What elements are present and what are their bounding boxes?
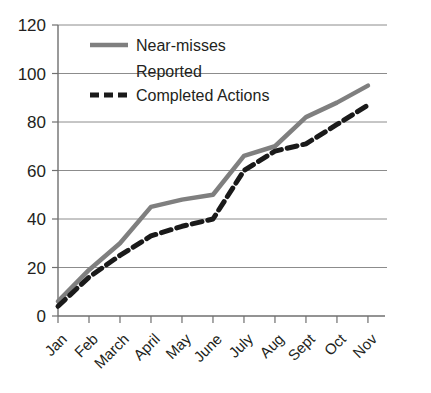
line-chart: 020406080100120 JanFebMarchAprilMayJuneJ… <box>0 0 431 393</box>
y-tick-label: 40 <box>27 210 46 229</box>
y-tick-label: 100 <box>18 65 46 84</box>
legend-label-near-misses-line2: Reported <box>136 63 202 80</box>
chart-canvas: 020406080100120 JanFebMarchAprilMayJuneJ… <box>0 0 431 393</box>
y-tick-label: 80 <box>27 113 46 132</box>
y-tick-label: 60 <box>27 162 46 181</box>
y-tick-label: 120 <box>18 16 46 35</box>
y-tick-label: 20 <box>27 259 46 278</box>
legend-label-completed-actions: Completed Actions <box>136 87 269 104</box>
y-tick-label: 0 <box>37 307 46 326</box>
legend-label-near-misses-line1: Near-misses <box>136 37 226 54</box>
